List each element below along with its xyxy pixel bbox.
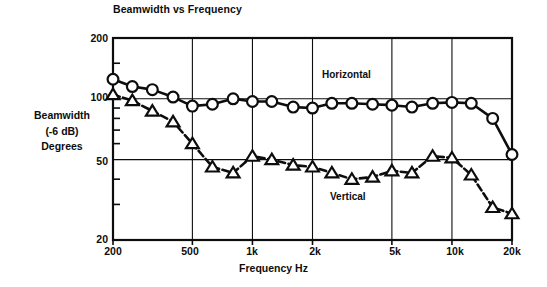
data-point-vertical-2 [146,105,159,115]
data-point-horizontal-16 [427,98,438,109]
data-point-vertical-13 [366,171,379,181]
data-point-horizontal-9 [288,102,299,113]
plot-canvas [0,0,547,287]
data-point-vertical-0 [107,89,120,99]
data-point-vertical-9 [287,159,300,169]
data-point-vertical-8 [265,154,278,164]
chart-figure: Beamwidth vs Frequency Beamwidth (-6 dB)… [0,0,547,287]
data-point-horizontal-10 [307,103,318,114]
data-point-vertical-17 [446,152,459,162]
data-point-horizontal-17 [447,97,458,108]
data-point-vertical-12 [345,173,358,183]
data-point-horizontal-0 [108,74,119,85]
data-point-horizontal-6 [228,93,239,104]
grid-lines [113,38,512,240]
data-point-vertical-14 [385,165,398,175]
data-point-vertical-10 [306,161,319,171]
data-point-horizontal-19 [487,113,498,124]
data-point-vertical-16 [426,150,439,160]
data-point-horizontal-15 [407,102,418,113]
data-point-vertical-11 [325,167,338,177]
data-point-vertical-19 [486,202,499,212]
data-point-horizontal-14 [386,100,397,111]
data-point-horizontal-20 [507,149,518,160]
data-point-horizontal-18 [466,98,477,109]
data-point-horizontal-8 [266,96,277,107]
data-point-horizontal-11 [326,98,337,109]
data-point-vertical-20 [506,208,519,218]
data-point-horizontal-13 [367,99,378,110]
data-point-vertical-1 [126,95,139,105]
data-point-vertical-3 [167,116,180,126]
data-point-horizontal-7 [247,96,258,107]
data-point-horizontal-3 [168,92,179,103]
data-point-vertical-7 [246,150,259,160]
data-point-horizontal-4 [187,101,198,112]
data-point-horizontal-12 [346,98,357,109]
data-point-horizontal-5 [207,99,218,110]
data-point-horizontal-2 [147,84,158,95]
data-point-horizontal-1 [127,81,138,92]
